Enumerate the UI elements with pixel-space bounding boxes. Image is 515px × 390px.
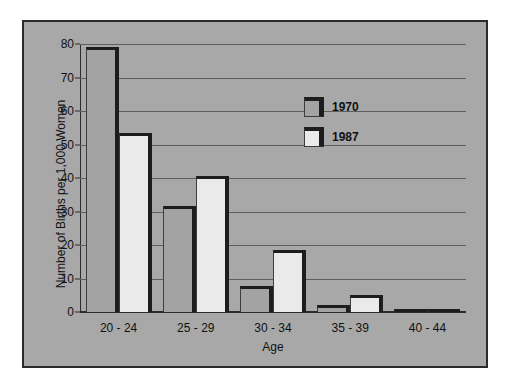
bar-1987-25-29: [196, 176, 229, 312]
legend-item-1987: 1987: [304, 122, 359, 152]
x-tick-label: 20 - 24: [100, 321, 137, 335]
x-tick-label: 35 - 39: [332, 321, 369, 335]
gridline: [80, 44, 466, 45]
legend-swatch-1987-icon: [304, 127, 324, 147]
y-tick-label: 0: [67, 305, 74, 319]
bar-1987-20-24: [119, 133, 152, 312]
y-tick-mark: [75, 245, 80, 246]
x-tick-label: 30 - 34: [254, 321, 291, 335]
x-axis-title: Age: [80, 340, 466, 354]
bar-1970-25-29: [163, 206, 196, 312]
y-tick-label: 80: [61, 37, 74, 51]
y-tick-mark: [75, 178, 80, 179]
x-tick-label: 40 - 44: [409, 321, 446, 335]
chart-page: 01020304050607080 20 - 2425 - 2930 - 343…: [0, 0, 515, 390]
y-tick-mark: [75, 211, 80, 212]
bar-1987-40-44: [427, 309, 460, 312]
plot-area: 01020304050607080 20 - 2425 - 2930 - 343…: [80, 44, 466, 312]
legend-label-1987: 1987: [332, 130, 359, 144]
y-tick-mark: [75, 278, 80, 279]
chart-legend: 1970 1987: [304, 92, 359, 152]
chart-panel: 01020304050607080 20 - 2425 - 2930 - 343…: [22, 20, 488, 368]
y-tick-mark: [75, 111, 80, 112]
legend-item-1970: 1970: [304, 92, 359, 122]
gridline: [80, 111, 466, 112]
y-tick-mark: [75, 312, 80, 313]
y-axis-title: Number of Births per 1,000 Women: [54, 79, 68, 309]
bar-1970-40-44: [394, 309, 427, 312]
bar-1970-30-34: [240, 286, 273, 312]
legend-swatch-1970-icon: [304, 97, 324, 117]
y-tick-mark: [75, 77, 80, 78]
bar-1987-30-34: [273, 250, 306, 312]
gridline: [80, 78, 466, 79]
bar-1970-35-39: [317, 305, 350, 312]
legend-label-1970: 1970: [332, 100, 359, 114]
bar-1987-35-39: [350, 295, 383, 312]
bar-1970-20-24: [86, 47, 119, 312]
y-tick-mark: [75, 144, 80, 145]
y-tick-mark: [75, 44, 80, 45]
x-tick-label: 25 - 29: [177, 321, 214, 335]
